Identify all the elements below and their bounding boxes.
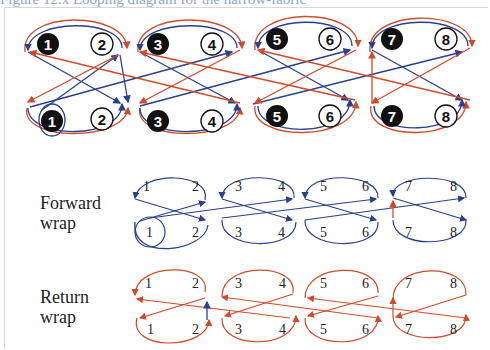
svg-text:5: 5 xyxy=(273,108,281,125)
svg-text:7: 7 xyxy=(388,108,396,125)
node-1-top: 1 xyxy=(44,36,52,53)
svg-text:8: 8 xyxy=(442,108,450,125)
svg-text:2: 2 xyxy=(98,36,106,53)
svg-text:3: 3 xyxy=(154,36,162,53)
svg-text:5: 5 xyxy=(273,31,281,48)
svg-text:4: 4 xyxy=(208,113,217,130)
svg-text:3: 3 xyxy=(154,113,162,130)
svg-text:8: 8 xyxy=(442,31,450,48)
svg-text:6: 6 xyxy=(326,31,334,48)
svg-text:1: 1 xyxy=(48,113,56,130)
return-wrap-label: Returnwrap xyxy=(40,287,89,327)
svg-text:2: 2 xyxy=(98,111,106,128)
forward-wrap-lines xyxy=(134,178,466,249)
svg-text:6: 6 xyxy=(326,108,334,125)
svg-text:7: 7 xyxy=(388,31,396,48)
svg-text:4: 4 xyxy=(208,36,217,53)
return-wrap-lines xyxy=(135,270,466,343)
top-circles: 1 2 3 4 5 6 7 8 1 2 3 4 5 6 7 8 xyxy=(37,28,457,132)
forward-wrap-label: Forwardwrap xyxy=(40,193,101,233)
